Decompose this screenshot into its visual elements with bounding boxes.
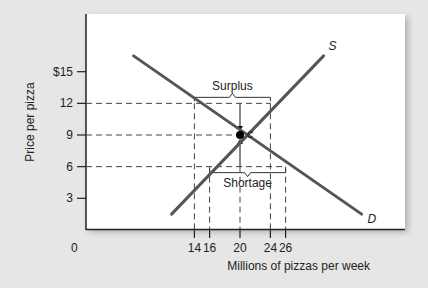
shortage-label: Shortage: [223, 176, 272, 190]
y-tick-label: 9: [66, 128, 73, 142]
y-tick-label: 6: [66, 160, 73, 174]
supply-label: S: [329, 39, 337, 53]
surplus-label: Surplus: [212, 79, 253, 93]
y-tick-label: 12: [60, 96, 74, 110]
x-ticks: 1416202426: [188, 229, 293, 255]
equilibrium-dot: [236, 131, 244, 139]
y-tick-label: 3: [66, 191, 73, 205]
x-tick-label: 14: [188, 241, 202, 255]
x-tick-label: 16: [203, 241, 217, 255]
equilibrium-label: c: [247, 127, 253, 141]
x-tick-label: 20: [233, 241, 247, 255]
x-tick-label: 26: [279, 241, 293, 255]
x-axis-title: Millions of pizzas per week: [227, 259, 371, 273]
x-tick-label: 24: [264, 241, 278, 255]
supply-demand-chart: 36912$15 1416202426 SurplusShortage DS c…: [0, 0, 428, 288]
y-tick-label: $15: [53, 65, 73, 79]
y-ticks: 36912$15: [53, 65, 86, 206]
y-axis-title: Price per pizza: [23, 82, 37, 162]
plot-panel: [86, 14, 405, 229]
demand-label: D: [368, 212, 377, 226]
origin-label: 0: [71, 241, 78, 255]
